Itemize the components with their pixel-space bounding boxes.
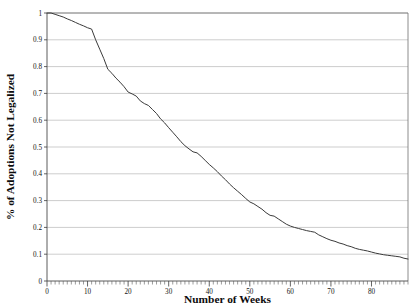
x-tick-label: 80 <box>368 288 376 296</box>
x-axis-minor-ticks <box>51 281 408 285</box>
y-tick-label: 1 <box>38 10 42 18</box>
y-tick-label: 0.8 <box>33 63 42 71</box>
y-tick-label: 0.1 <box>33 251 42 259</box>
y-tick-label: 0.4 <box>33 170 42 178</box>
y-tick-label: 0.3 <box>33 197 42 205</box>
y-tick-label: 0.2 <box>33 224 42 232</box>
y-axis-tick-labels: 00.10.20.30.40.50.60.70.80.91 <box>33 10 42 286</box>
x-tick-label: 30 <box>165 288 173 296</box>
y-tick-label: 0 <box>38 278 42 286</box>
chart-canvas: 00.10.20.30.40.50.60.70.80.91 0102030405… <box>0 0 413 308</box>
y-tick-label: 0.6 <box>33 117 42 125</box>
y-axis-title: % of Adoptions Not Legalized <box>4 73 16 220</box>
x-tick-label: 0 <box>45 288 49 296</box>
survival-curve-figure: 00.10.20.30.40.50.60.70.80.91 0102030405… <box>0 0 413 308</box>
y-tick-label: 0.7 <box>33 90 42 98</box>
x-axis-title: Number of Weeks <box>184 293 271 305</box>
x-tick-label: 20 <box>125 288 133 296</box>
x-tick-label: 10 <box>84 288 92 296</box>
y-tick-label: 0.9 <box>33 36 42 44</box>
x-tick-label: 70 <box>327 288 335 296</box>
x-tick-label: 60 <box>287 288 295 296</box>
y-tick-label: 0.5 <box>33 144 42 152</box>
